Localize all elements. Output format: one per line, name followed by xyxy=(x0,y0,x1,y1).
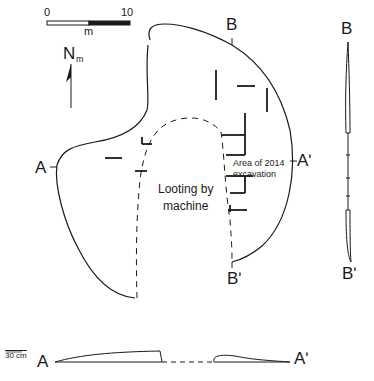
plan-label-b: B xyxy=(226,16,237,33)
plan-label-b-prime: Bʹ xyxy=(227,270,242,287)
excavation-label: Area of 2014 excavation xyxy=(233,158,285,180)
vertical-scale-label: 30 cm xyxy=(5,352,27,360)
north-arrow-icon xyxy=(66,64,71,108)
plan-label-a: A xyxy=(35,159,46,176)
section-a-right-label: Aʹ xyxy=(294,350,309,367)
north-label: N xyxy=(63,45,75,62)
section-b-top-label: B xyxy=(341,20,352,37)
scale-end-label: 10 xyxy=(121,7,133,18)
scale-start-label: 0 xyxy=(44,7,50,18)
north-subscript: m xyxy=(76,55,84,64)
section-a-left-label: A xyxy=(37,353,48,370)
section-b-bottom-label: Bʹ xyxy=(342,265,357,282)
site-outline xyxy=(149,24,293,262)
section-b-profile xyxy=(346,42,351,262)
looting-label: Looting by machine xyxy=(158,181,213,215)
section-a-profile xyxy=(55,351,290,362)
scale-unit-label: m xyxy=(84,26,93,37)
plan-label-a-prime: Aʹ xyxy=(297,152,312,169)
site-outline-west xyxy=(56,45,148,298)
